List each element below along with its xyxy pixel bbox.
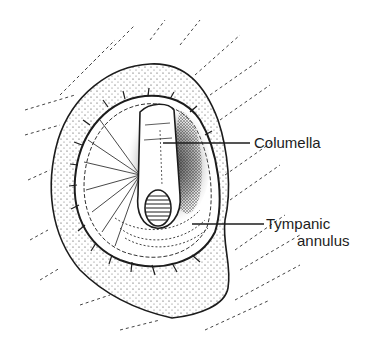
tip-stripes: [146, 196, 170, 220]
ear-diagram: [0, 0, 382, 359]
tympanic-annulus-label-line1: Tympanic: [266, 216, 330, 232]
columella-label: Columella: [254, 135, 321, 151]
tympanic-annulus-label-line2: annulus: [297, 233, 350, 249]
